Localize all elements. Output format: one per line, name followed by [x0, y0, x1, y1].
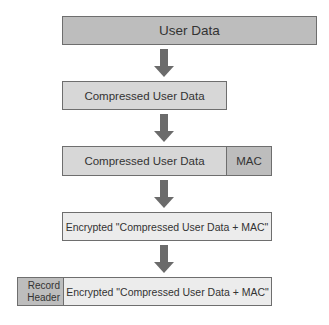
record-header-line-1: Record [28, 280, 60, 292]
mac-segment: MAC [226, 147, 271, 175]
encrypted-label: Encrypted "Compressed User Data + MAC" [63, 213, 271, 240]
down-arrow-icon [154, 49, 174, 78]
encrypted-box: Encrypted "Compressed User Data + MAC" [62, 212, 272, 241]
record-box: Record Header Encrypted "Compressed User… [17, 277, 272, 306]
record-header-line-2: Header [27, 292, 60, 304]
user-data-label: User Data [63, 17, 316, 44]
encrypted-segment: Encrypted "Compressed User Data + MAC" [63, 278, 271, 305]
user-data-box: User Data [62, 16, 317, 45]
down-arrow-icon [154, 245, 174, 274]
record-header-segment: Record Header [18, 278, 63, 305]
down-arrow-icon [154, 180, 174, 209]
down-arrow-icon [154, 114, 174, 143]
compressed-mac-box: Compressed User Data MAC [62, 146, 272, 176]
compressed-data-label: Compressed User Data [63, 82, 226, 109]
compressed-data-box: Compressed User Data [62, 81, 227, 110]
compressed-data-segment: Compressed User Data [63, 147, 226, 175]
